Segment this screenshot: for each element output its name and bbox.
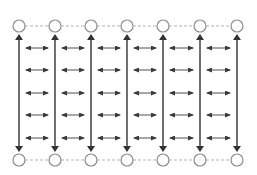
- top-node-circle-icon: [194, 20, 206, 32]
- top-node-circle-icon: [121, 20, 133, 32]
- top-node-circle-icon: [231, 20, 243, 32]
- bottom-node-circle-icon: [231, 154, 243, 166]
- grid-arrow-diagram: [0, 0, 257, 175]
- top-node-circle-icon: [85, 20, 97, 32]
- top-node-circle-icon: [13, 20, 25, 32]
- bottom-node-circle-icon: [157, 154, 169, 166]
- bottom-node-circle-icon: [13, 154, 25, 166]
- bottom-node-circle-icon: [121, 154, 133, 166]
- vertical-arrows: [19, 37, 237, 149]
- bottom-node-circle-icon: [85, 154, 97, 166]
- top-node-circle-icon: [49, 20, 61, 32]
- top-node-circle-icon: [157, 20, 169, 32]
- bottom-node-circle-icon: [194, 154, 206, 166]
- bottom-node-circle-icon: [49, 154, 61, 166]
